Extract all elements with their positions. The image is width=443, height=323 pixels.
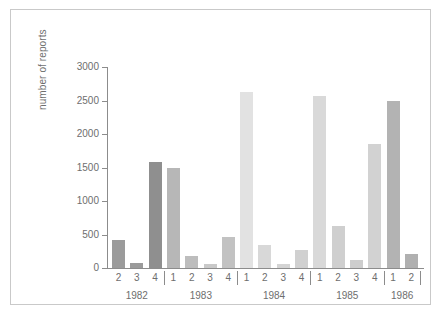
y-tick-label-2500: 2500: [59, 96, 99, 106]
y-tick-label-1000: 1000: [59, 196, 99, 206]
x-tick-label-1985-q1: 1: [312, 272, 328, 284]
bar-1982-q4: [149, 162, 162, 268]
x-tick-label-1986-q1: 1: [385, 272, 401, 284]
y-tick-label-2000: 2000: [59, 129, 99, 139]
y-tick-label-500: 500: [59, 230, 99, 240]
bar-1984-q4: [295, 250, 308, 268]
bar-1985-q4: [368, 144, 381, 268]
bar-1985-q3: [350, 260, 363, 268]
x-tick-label-1983-q1: 1: [165, 272, 181, 284]
group-separator-1986: [384, 271, 385, 285]
x-tick-label-1984-q4: 4: [294, 272, 310, 284]
y-tick-label-0: 0: [59, 263, 99, 273]
x-tick-label-1984-q3: 3: [275, 272, 291, 284]
bar-1983-q1: [167, 168, 180, 269]
x-tick-label-1985-q2: 2: [330, 272, 346, 284]
x-group-label-1985: 1985: [327, 290, 367, 302]
x-tick-label-1982-q3: 3: [129, 272, 145, 284]
x-tick-label-1982-q4: 4: [147, 272, 163, 284]
x-tick-label-1982-q2: 2: [111, 272, 127, 284]
chart-figure: number of reports 0500100015002000250030…: [0, 0, 443, 323]
bar-1984-q3: [277, 264, 290, 268]
bar-series: [107, 60, 427, 268]
x-group-label-1983: 1983: [181, 290, 221, 302]
group-separator-1984: [237, 271, 238, 285]
x-tick-label-1983-q3: 3: [202, 272, 218, 284]
x-tick-label-1984-q1: 1: [239, 272, 255, 284]
chart-frame: number of reports 0500100015002000250030…: [10, 9, 431, 305]
x-axis-line: [107, 268, 424, 269]
bar-1983-q4: [222, 237, 235, 268]
x-group-label-1982: 1982: [117, 290, 157, 302]
bar-1982-q3: [130, 263, 143, 268]
bar-1986-q1: [387, 101, 400, 269]
bar-1983-q3: [204, 264, 217, 268]
x-tick-label-1983-q4: 4: [220, 272, 236, 284]
bar-1984-q1: [240, 92, 253, 268]
y-tick-0: [102, 268, 107, 269]
y-axis-label: number of reports: [37, 29, 48, 110]
y-tick-label-1500: 1500: [59, 163, 99, 173]
group-separator-end: [420, 271, 421, 285]
bar-1982-q2: [112, 240, 125, 268]
plot-area: 050010001500200025003000: [107, 60, 427, 269]
bar-1986-q2: [405, 254, 418, 268]
bar-1984-q2: [258, 245, 271, 268]
bar-1985-q1: [313, 96, 326, 268]
x-group-label-1984: 1984: [254, 290, 294, 302]
x-tick-label-1986-q2: 2: [403, 272, 419, 284]
x-group-label-1986: 1986: [382, 290, 422, 302]
x-tick-label-1984-q2: 2: [257, 272, 273, 284]
x-tick-label-1985-q3: 3: [348, 272, 364, 284]
y-tick-label-3000: 3000: [59, 62, 99, 72]
x-axis-labels: 2341234123412341219821983198419851986: [107, 271, 427, 315]
x-tick-label-1985-q4: 4: [367, 272, 383, 284]
bar-1983-q2: [185, 256, 198, 268]
group-separator-1985: [310, 271, 311, 285]
x-tick-label-1983-q2: 2: [184, 272, 200, 284]
bar-1985-q2: [332, 226, 345, 268]
group-separator-1983: [164, 271, 165, 285]
